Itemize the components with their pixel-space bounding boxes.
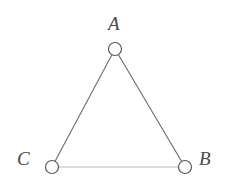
node-c[interactable] — [46, 161, 59, 174]
node-b[interactable] — [179, 161, 192, 174]
graph-figure: A C B — [0, 0, 228, 180]
node-label-c: C — [17, 149, 30, 168]
node-label-b: B — [199, 149, 211, 168]
node-label-a: A — [108, 14, 120, 33]
edge-group — [55, 55, 182, 167]
edge-a-c — [55, 55, 112, 162]
node-group — [46, 43, 192, 174]
edge-a-b — [118, 55, 181, 162]
node-a[interactable] — [109, 43, 122, 56]
